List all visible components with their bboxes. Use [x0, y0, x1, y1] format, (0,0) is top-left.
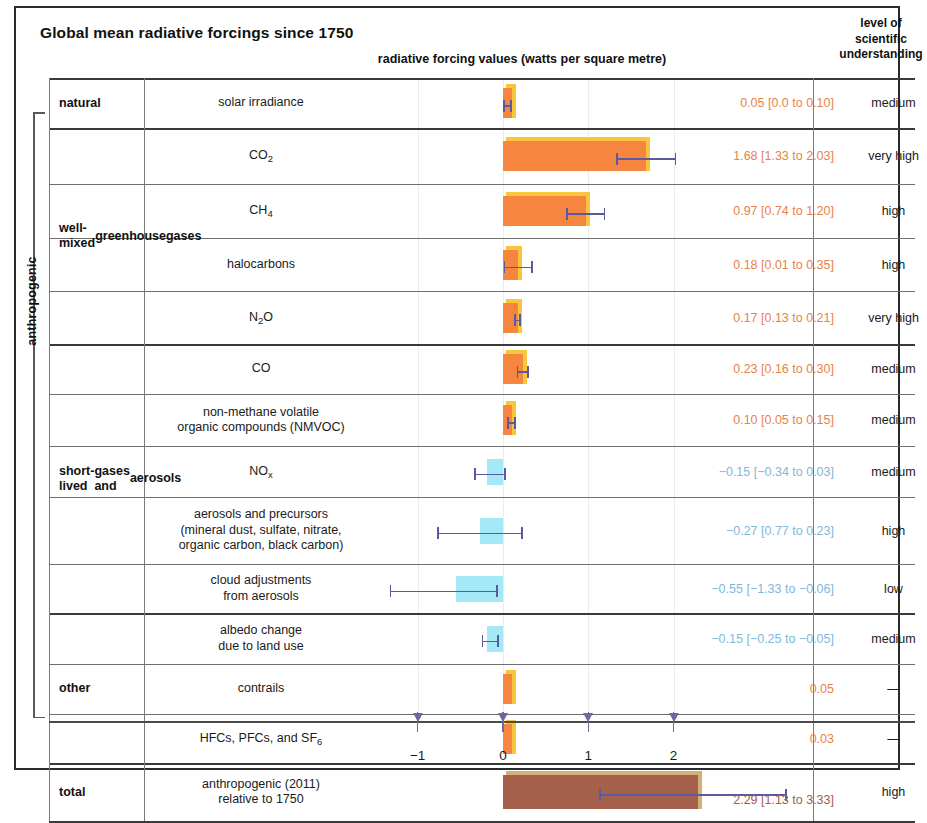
forcings-table: naturalwell-mixedgreenhousegasesshort-li…: [49, 78, 915, 721]
row-label-albedo-change-due-to-land-use: albedo changedue to land use: [145, 613, 377, 664]
row-value-solar-irradiance: 0.05 [0.0 to 0.10]: [504, 78, 834, 128]
bar-albedo-change-due-to-land-use: [487, 626, 503, 652]
row-label-halocarbons: halocarbons: [145, 238, 377, 291]
x-axis-line: [49, 721, 915, 723]
row-value-aerosols-and-precursors-mineral-dust-sulfate-nitrate-organic-carbon-black-carbon-: −0.27 [0.77 to 0.23]: [504, 497, 834, 564]
row-lsu-albedo-change-due-to-land-use: medium: [846, 613, 927, 664]
error-cap-low: [482, 635, 484, 647]
bar-face: [487, 626, 503, 652]
row-label-solar-irradiance: solar irradiance: [145, 78, 377, 128]
row-value-halocarbons: 0.18 [0.01 to 0.35]: [504, 238, 834, 291]
row-lsu-ch4: high: [846, 184, 927, 238]
error-bar-albedo-change-due-to-land-use: [482, 641, 499, 643]
error-cap-high: [496, 585, 498, 597]
chart-axis-title: radiative forcing values (watts per squa…: [312, 52, 732, 66]
row-label-n2o: N2O: [145, 291, 377, 344]
row-label-aerosols-and-precursors-mineral-dust-sulfate-nitrate-organic-carbon-black-carbon-: aerosols and precursors(mineral dust, su…: [145, 497, 377, 564]
anthropogenic-bracket-label: anthropogenic: [25, 241, 39, 361]
row-lsu-co: medium: [846, 344, 927, 394]
row-value-ch4: 0.97 [0.74 to 1.20]: [504, 184, 834, 238]
row-lsu-cloud-adjustments-from-aerosols: low: [846, 564, 927, 613]
error-bar-cloud-adjustments-from-aerosols: [390, 591, 498, 593]
error-bar-nox: [474, 474, 506, 476]
row-lsu-anthropogenic-2011-relative-to-1750: high: [846, 763, 927, 821]
tick-arrow: [498, 713, 508, 722]
row-lsu-solar-irradiance: medium: [846, 78, 927, 128]
row-value-cloud-adjustments-from-aerosols: −0.55 [−1.33 to −0.06]: [504, 564, 834, 613]
row-value-n2o: 0.17 [0.13 to 0.21]: [504, 291, 834, 344]
group-label-well-mixed: well-mixedgreenhousegases: [49, 128, 144, 344]
column-header-level-of-scientific-understanding: level of scientific understanding: [832, 16, 927, 63]
bar-face: [480, 518, 503, 544]
group-label-short-lived: short-livedgases andaerosols: [49, 344, 144, 613]
row-lsu-n2o: very high: [846, 291, 927, 344]
error-cap-low: [390, 585, 392, 597]
gridline--1: [418, 78, 419, 721]
row-lsu-non-methane-volatile-organic-compounds-nmvoc-: medium: [846, 394, 927, 446]
row-label-cloud-adjustments-from-aerosols: cloud adjustmentsfrom aerosols: [145, 564, 377, 613]
table-bottom-rule: [49, 821, 915, 823]
row-value-nox: −0.15 [−0.34 to 0.03]: [504, 446, 834, 497]
figure-frame: Global mean radiative forcings since 175…: [14, 6, 900, 770]
bar-aerosols-and-precursors-mineral-dust-sulfate-nitrate-organic-carbon-black-carbon-: [480, 518, 503, 544]
row-lsu-co2: very high: [846, 128, 927, 184]
tick-arrow: [669, 713, 679, 722]
row-label-non-methane-volatile-organic-compounds-nmvoc-: non-methane volatileorganic compounds (N…: [145, 394, 377, 446]
row-lsu-nox: medium: [846, 446, 927, 497]
group-label-natural: natural: [49, 78, 144, 128]
row-value-albedo-change-due-to-land-use: −0.15 [−0.25 to −0.05]: [504, 613, 834, 664]
row-lsu-aerosols-and-precursors-mineral-dust-sulfate-nitrate-organic-carbon-black-carbon-: high: [846, 497, 927, 564]
row-value-co: 0.23 [0.16 to 0.30]: [504, 344, 834, 394]
row-label-nox: NOx: [145, 446, 377, 497]
row-value-contrails: 0.05: [504, 664, 834, 714]
lsu-header-line1: level of: [832, 16, 927, 32]
row-value-non-methane-volatile-organic-compounds-nmvoc-: 0.10 [0.05 to 0.15]: [504, 394, 834, 446]
figure-title: Global mean radiative forcings since 175…: [40, 24, 353, 42]
tick-arrow: [413, 713, 423, 722]
row-value-anthropogenic-2011-relative-to-1750: 2.29 [1.13 to 3.33]: [504, 779, 834, 821]
bar-face: [487, 459, 503, 485]
error-cap-low: [437, 527, 439, 539]
row-label-co2: CO2: [145, 128, 377, 184]
row-lsu-contrails: —: [846, 664, 927, 714]
tick-arrow: [583, 713, 593, 722]
bar-nox: [487, 459, 503, 485]
error-cap-high: [497, 635, 499, 647]
lsu-header-line2: scientific: [832, 32, 927, 48]
row-label-co: CO: [145, 344, 377, 394]
bar-top-bevel: [506, 771, 701, 775]
x-tick-label-1: 1: [568, 748, 608, 763]
anthropogenic-bracket: [33, 112, 35, 718]
row-label-contrails: contrails: [145, 664, 377, 714]
lsu-header-line3: understanding: [832, 47, 927, 63]
group-label-total: total: [49, 763, 144, 821]
x-tick-label--1: −1: [398, 748, 438, 763]
row-lsu-halocarbons: high: [846, 238, 927, 291]
row-label-ch4: CH4: [145, 184, 377, 238]
group-label-other: other: [49, 613, 144, 763]
error-cap-low: [474, 468, 476, 480]
x-tick-label-0: 0: [483, 748, 523, 763]
x-tick-label-2: 2: [654, 748, 694, 763]
row-value-co2: 1.68 [1.33 to 2.03]: [504, 128, 834, 184]
row-label-anthropogenic-2011-relative-to-1750: anthropogenic (2011)relative to 1750: [145, 763, 377, 821]
